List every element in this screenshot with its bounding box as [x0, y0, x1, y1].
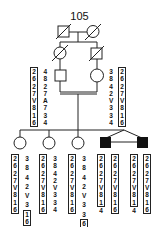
twin1-affected-symbol: [100, 137, 111, 148]
child3-female-symbol: [72, 137, 84, 149]
parent-female-symbol: [91, 69, 104, 82]
twin1-haplotype-b: 2627V816: [111, 154, 119, 214]
mother-haplotype-boxed: 2627V816: [118, 67, 126, 127]
father-haplotype-boxed: 2627V816: [30, 67, 38, 127]
father-haplotype-other: 4827A734: [41, 67, 50, 127]
parent-male-symbol: [55, 70, 66, 81]
child1-female-symbol: [14, 137, 26, 149]
pedigree-diagram: 105: [0, 0, 159, 227]
twin2-affected-symbol: [137, 137, 148, 148]
child3-haplotype-boxed: 2627V816: [68, 154, 76, 214]
mother-haplotype-other: 3842V334: [107, 67, 115, 127]
child3-haplotype-other: 3842V33 6: [80, 154, 88, 227]
child1-haplotype-other: 3842V3 16: [23, 154, 31, 226]
twin1-haplotype-a: 2627V81 4: [97, 154, 105, 214]
twin2-haplotype-b: 2627V816: [143, 154, 151, 214]
child1-haplotype-boxed: 2627V816: [11, 154, 19, 214]
child2-haplotype-boxed: 2627V816: [39, 154, 47, 214]
twin2-haplotype-a: 2627V81 4: [130, 154, 138, 214]
child2-haplotype-other: 3842V334: [51, 154, 59, 214]
child2-female-symbol: [43, 137, 55, 149]
